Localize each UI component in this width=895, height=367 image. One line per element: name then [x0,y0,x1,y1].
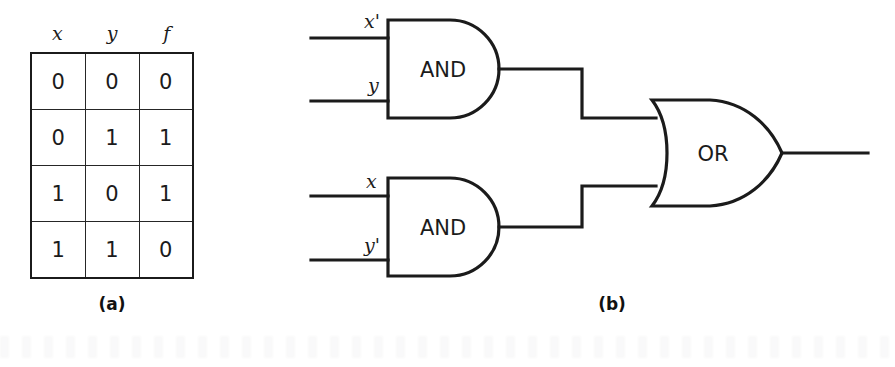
logic-circuit-diagram: AND AND OR [290,0,890,300]
table-cell-x: 1 [31,166,85,222]
table-cell-x: 0 [31,53,85,110]
table-cell-x: 0 [31,110,85,166]
caption-part-a: (a) [30,296,194,313]
input-label-x: x [366,172,377,191]
table-cell-f: 1 [139,110,193,166]
table-row: 1 0 1 [31,166,193,222]
table-cell-f: 0 [139,222,193,279]
truth-table-panel: x y f 0 0 0 0 1 1 1 0 1 [30,14,194,279]
table-row: 1 1 0 [31,222,193,279]
input-label-x-prime: x' [364,12,380,31]
figure-root: x y f 0 0 0 0 1 1 1 0 1 [0,0,895,367]
truth-table-header-f: f [139,24,194,43]
and-gate-bottom-label: AND [420,216,466,240]
table-cell-y: 0 [85,53,139,110]
table-cell-y: 0 [85,166,139,222]
wire-and-top-to-or [499,69,656,118]
input-label-y: y [368,76,379,95]
input-label-y-prime: y' [364,236,380,255]
or-gate-label: OR [697,142,728,166]
table-row: 0 1 1 [31,110,193,166]
table-cell-y: 1 [85,110,139,166]
logic-circuit-panel: AND AND OR x' y x y' [290,0,890,300]
truth-table-header-row: x y f [30,14,194,52]
page-bleed-text [0,336,895,358]
truth-table-header-y: y [85,24,140,43]
table-cell-f: 1 [139,166,193,222]
truth-table: 0 0 0 0 1 1 1 0 1 1 1 0 [30,52,194,279]
wire-and-bottom-to-or [499,186,656,227]
table-cell-x: 1 [31,222,85,279]
truth-table-header-x: x [30,24,85,43]
table-cell-f: 0 [139,53,193,110]
table-cell-y: 1 [85,222,139,279]
caption-part-b: (b) [530,296,694,313]
table-row: 0 0 0 [31,53,193,110]
and-gate-top-label: AND [420,58,466,82]
